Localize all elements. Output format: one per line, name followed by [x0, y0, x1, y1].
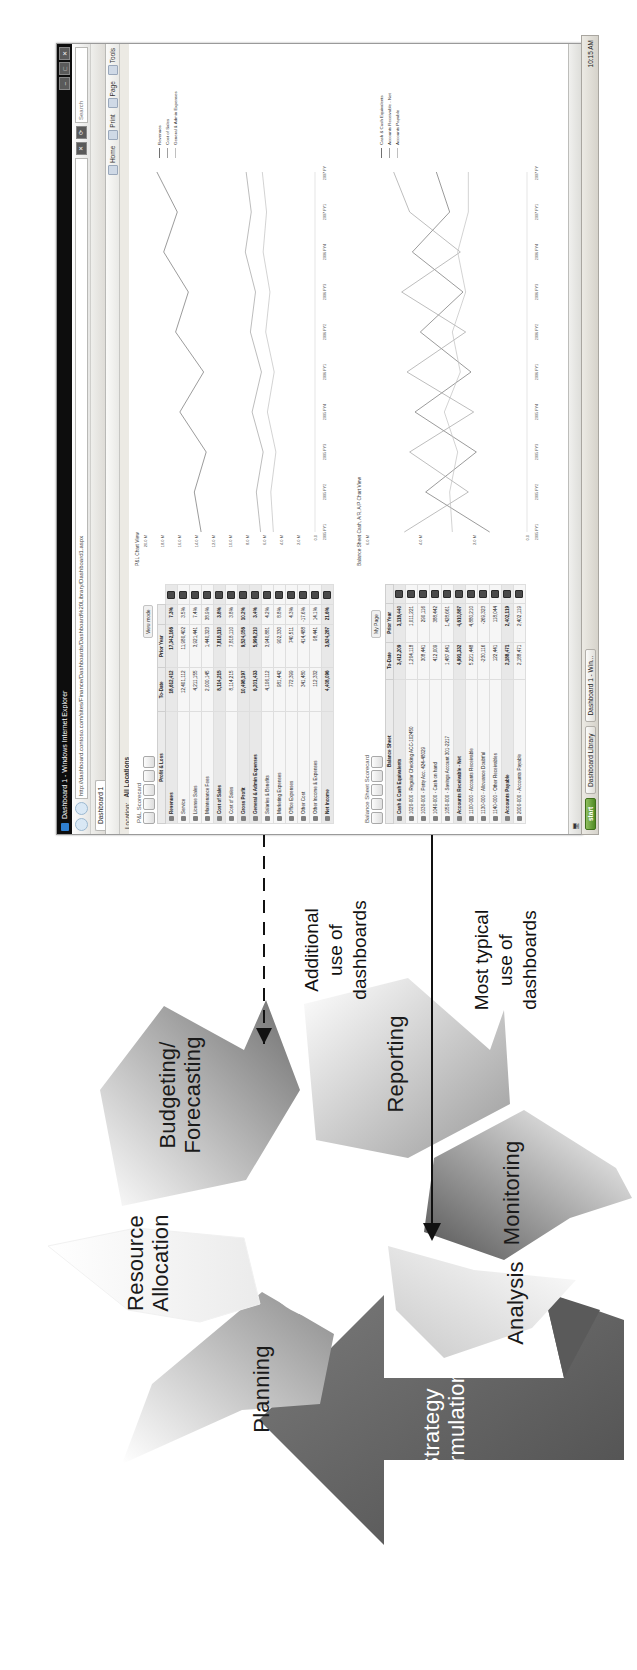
table-row[interactable]: Cost of Sales8,114,2157,818,1103.8%	[214, 585, 226, 824]
row-expand-icon[interactable]	[433, 816, 438, 821]
row-expand-icon[interactable]	[301, 816, 306, 821]
menu-tools[interactable]: Tools	[108, 48, 118, 75]
row-expand-icon[interactable]	[517, 816, 522, 821]
row-value: 8.8%	[274, 605, 286, 625]
row-expand-icon[interactable]	[457, 816, 462, 821]
table-row[interactable]: 1020-000 - Regular Checking ACC-1024501,…	[406, 585, 418, 824]
refresh-widget-icon[interactable]	[371, 756, 383, 768]
table-row[interactable]: Service12,401,11211,980,4023.5%	[178, 585, 190, 824]
row-expand-icon[interactable]	[469, 816, 474, 821]
browser-navbar[interactable]: http://dashboard.contoso.com/sites/Finan…	[72, 44, 91, 834]
row-value: 4.2%	[262, 605, 274, 625]
table-row[interactable]: Net Income4,408,0963,624,28721.6%	[322, 585, 334, 824]
refresh-icon[interactable]: ⟳	[76, 126, 87, 139]
table-row[interactable]: Marketing Expenses981,442902,3308.8%	[274, 585, 286, 824]
row-expand-icon[interactable]	[265, 816, 270, 821]
row-expand-icon[interactable]	[193, 816, 198, 821]
table-row[interactable]: Other Income & Expenses112,33298,44114.1…	[310, 585, 322, 824]
row-expand-icon[interactable]	[205, 816, 210, 821]
browser-tabbar[interactable]: Dashboard 1	[91, 44, 106, 834]
filter-icon[interactable]	[143, 784, 155, 796]
table-row[interactable]: Revenues18,612,41217,342,1667.3%	[166, 585, 178, 824]
row-value: 4,991,332	[454, 642, 466, 679]
gear-icon	[108, 65, 118, 75]
row-expand-icon[interactable]	[289, 816, 294, 821]
table-row[interactable]: 1050-000 - Savings Account 301-22171,487…	[442, 585, 454, 824]
series-line	[412, 172, 489, 532]
windows-taskbar[interactable]: start Dashboard Library Dashboard 1 - Wi…	[581, 35, 599, 835]
maximize-button[interactable]: □	[59, 62, 70, 75]
table-row[interactable]: Office Expenses772,399740,5114.3%	[286, 585, 298, 824]
row-expand-icon[interactable]	[169, 816, 174, 821]
row-expand-icon[interactable]	[409, 816, 414, 821]
browser-menubar[interactable]: Home Print Page Tools	[106, 44, 120, 834]
row-value: 3.4%	[250, 605, 262, 625]
system-tray[interactable]: 10:15 AM	[587, 40, 594, 67]
filter-icon[interactable]	[371, 784, 383, 796]
row-expand-icon[interactable]	[397, 816, 402, 821]
export-icon[interactable]	[143, 770, 155, 782]
legend-label: General & Admin Expenses	[173, 91, 178, 145]
menu-home-label: Home	[109, 146, 116, 163]
pl-chart-svg: 20.0 M18.0 M16.0 M14.0 M12.0 M10.0 M8.0 …	[141, 166, 331, 566]
table-row[interactable]: Accounts Payable2,188,4712,402,119	[502, 585, 514, 824]
taskbar-item-dashboard-1[interactable]: Dashboard 1 - Win...	[585, 649, 596, 723]
expand-icon[interactable]	[371, 812, 383, 824]
my-page-button[interactable]: My Page	[371, 610, 381, 638]
table-row[interactable]: 1040-000 - Cash on hand412,009388,442	[430, 585, 442, 824]
row-expand-icon[interactable]	[481, 816, 486, 821]
row-expand-icon[interactable]	[325, 816, 330, 821]
tab-dashboard-1[interactable]: Dashboard 1	[95, 780, 105, 831]
window-controls[interactable]: – □ ✕	[59, 47, 70, 90]
table-row[interactable]: 1100-000 - Accounts Receivable5,221,4484…	[466, 585, 478, 824]
row-expand-icon[interactable]	[217, 816, 222, 821]
table-row[interactable]: 1030-000 - Petty Acc. 424-48029308,44129…	[418, 585, 430, 824]
table-row[interactable]: License Sales4,211,1553,921,4417.4%	[190, 585, 202, 824]
row-expand-icon[interactable]	[241, 816, 246, 821]
row-status-indicator	[418, 585, 430, 604]
row-expand-icon[interactable]	[445, 816, 450, 821]
start-button[interactable]: start	[585, 798, 596, 830]
row-expand-icon[interactable]	[313, 816, 318, 821]
collapse-icon[interactable]	[143, 798, 155, 810]
row-expand-icon[interactable]	[229, 816, 234, 821]
row-expand-icon[interactable]	[505, 816, 510, 821]
row-expand-icon[interactable]	[421, 816, 426, 821]
table-row[interactable]: Cash & Cash Equivalents3,412,2093,118,44…	[394, 585, 406, 824]
row-expand-icon[interactable]	[181, 816, 186, 821]
menu-home[interactable]: Home	[108, 146, 118, 175]
forward-button-icon[interactable]	[75, 802, 88, 815]
y-axis-tick-label: 0.0	[525, 534, 530, 540]
row-expand-icon[interactable]	[277, 816, 282, 821]
export-icon[interactable]	[371, 770, 383, 782]
row-expand-icon[interactable]	[253, 816, 258, 821]
taskbar-item-dashboard-library[interactable]: Dashboard Library	[585, 726, 596, 793]
row-expand-icon[interactable]	[493, 816, 498, 821]
search-input[interactable]: Search	[75, 47, 88, 123]
address-bar[interactable]: http://dashboard.contoso.com/sites/Finan…	[75, 158, 88, 799]
menu-page[interactable]: Page	[108, 81, 118, 108]
table-row[interactable]: Other Cost341,480414,488-17.6%	[298, 585, 310, 824]
back-button-icon[interactable]	[75, 818, 88, 831]
stop-icon[interactable]: ✕	[76, 142, 87, 155]
table-row[interactable]: 2000-000 - Accounts Payable2,188,4712,40…	[514, 585, 526, 824]
browser-window[interactable]: Dashboard 1 - Windows Internet Explorer …	[56, 43, 583, 835]
table-row[interactable]: General & Admin Expenses6,201,4335,998,2…	[250, 585, 262, 824]
table-row[interactable]: Maintenance Fees2,000,1451,440,32338.9%	[202, 585, 214, 824]
collapse-icon[interactable]	[371, 798, 383, 810]
menu-print[interactable]: Print	[108, 114, 118, 139]
row-value: 3,940,881	[262, 624, 274, 668]
table-row[interactable]: Accounts Receivable - Net4,991,3324,610,…	[454, 585, 466, 824]
close-button[interactable]: ✕	[59, 47, 70, 60]
table-row[interactable]: 1130-000 - Allowance Doubtful-230,116-26…	[478, 585, 490, 824]
table-row[interactable]: 1140-000 - Other Receivables122,441118,0…	[490, 585, 502, 824]
table-row[interactable]: Cost of Sales8,114,2157,818,1103.8%	[226, 585, 238, 824]
minimize-button[interactable]: –	[59, 77, 70, 90]
expand-icon[interactable]	[143, 812, 155, 824]
view-mode-button[interactable]: View mode	[143, 605, 153, 638]
table-row[interactable]: Salaries & Benefits4,106,1123,940,8814.2…	[262, 585, 274, 824]
table-row[interactable]: Gross Profit10,498,1979,524,05610.2%	[238, 585, 250, 824]
row-value: 7.4%	[190, 605, 202, 625]
row-value: 122,441	[490, 642, 502, 679]
refresh-widget-icon[interactable]	[143, 756, 155, 768]
